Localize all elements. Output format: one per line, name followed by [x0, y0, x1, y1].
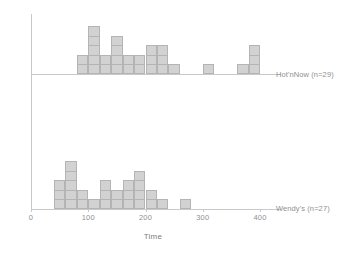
histogram-bar-cell [88, 45, 99, 55]
histogram-bar-cell [77, 199, 88, 209]
histogram-top-hot-n-now [31, 14, 281, 74]
histogram-bar [100, 180, 111, 209]
histogram-bar-cell [65, 161, 76, 171]
histogram-bar-cell [88, 199, 99, 209]
histogram-bar-cell [157, 55, 168, 65]
histogram-bar [123, 55, 134, 74]
histogram-bar [77, 55, 88, 74]
histogram-bar-cell [123, 64, 134, 74]
histogram-bar [111, 36, 122, 74]
histogram-bar [168, 64, 179, 74]
histogram-bar-cell [100, 190, 111, 200]
histogram-bar [180, 199, 191, 209]
x-tick-mark [88, 209, 89, 212]
histogram-bar [146, 45, 157, 74]
histogram-figure: 0100200300400 Hot'nNow (n=29) Wendy's (n… [0, 0, 358, 256]
histogram-bar-cell [88, 36, 99, 46]
histogram-bar-cell [77, 55, 88, 65]
histogram-bar-cell [65, 199, 76, 209]
histogram-bar [65, 161, 76, 209]
histogram-bar-cell [88, 26, 99, 36]
histogram-bar-cell [146, 55, 157, 65]
histogram-bar-cell [134, 171, 145, 181]
histogram-bar-cell [111, 45, 122, 55]
histogram-bar-cell [65, 190, 76, 200]
x-tick-label: 100 [73, 213, 103, 223]
histogram-bar-cell [100, 199, 111, 209]
histogram-bar-cell [168, 64, 179, 74]
histogram-bar-cell [134, 190, 145, 200]
histogram-bar [134, 171, 145, 209]
histogram-bar-cell [157, 45, 168, 55]
x-tick-label: 400 [245, 213, 275, 223]
histogram-bar-cell [134, 55, 145, 65]
histogram-bar-cell [157, 199, 168, 209]
histogram-bar-cell [249, 45, 260, 55]
histogram-bar-cell [100, 64, 111, 74]
histogram-bar-cell [77, 190, 88, 200]
x-axis-line [31, 209, 281, 210]
histogram-bar-cell [54, 180, 65, 190]
histogram-bar [237, 64, 248, 74]
x-tick-label: 0 [16, 213, 46, 223]
histogram-bar-cell [54, 190, 65, 200]
histogram-bar [134, 55, 145, 74]
histogram-bar-cell [111, 55, 122, 65]
histogram-bar [203, 64, 214, 74]
histogram-bar-cell [111, 199, 122, 209]
histogram-bar-cell [134, 180, 145, 190]
histogram-bar [249, 45, 260, 74]
histogram-bar-cell [123, 55, 134, 65]
histogram-bar-cell [100, 55, 111, 65]
histogram-bar-cell [146, 45, 157, 55]
histogram-bar-cell [88, 55, 99, 65]
histogram-bar [88, 26, 99, 74]
histogram-bar [157, 45, 168, 74]
histogram-bar [111, 190, 122, 209]
histogram-bar-cell [146, 199, 157, 209]
x-tick-mark [203, 209, 204, 212]
histogram-bar [157, 199, 168, 209]
histogram-bar-cell [249, 55, 260, 65]
histogram-bar [146, 190, 157, 209]
series-label-hot-n-now: Hot'nNow (n=29) [276, 70, 334, 80]
histogram-bar-cell [249, 64, 260, 74]
histogram-bar-cell [77, 64, 88, 74]
histogram-bar-cell [54, 199, 65, 209]
x-tick-mark [31, 209, 32, 212]
histogram-bar-cell [111, 190, 122, 200]
histogram-bar-cell [180, 199, 191, 209]
histogram-bottom-wendys [31, 149, 281, 209]
histogram-bar-cell [123, 180, 134, 190]
histogram-bar-cell [134, 64, 145, 74]
histogram-bar [100, 55, 111, 74]
histogram-bar-cell [111, 64, 122, 74]
histogram-bar-cell [111, 36, 122, 46]
histogram-bar [54, 180, 65, 209]
histogram-bar-cell [65, 180, 76, 190]
x-tick-mark [146, 209, 147, 212]
histogram-bar-cell [100, 180, 111, 190]
top-panel-baseline [31, 74, 281, 75]
histogram-bar-cell [146, 64, 157, 74]
histogram-bar [88, 199, 99, 209]
x-axis-title: Time [123, 232, 183, 241]
histogram-bar [77, 190, 88, 209]
histogram-bar-cell [203, 64, 214, 74]
histogram-bar-cell [88, 64, 99, 74]
histogram-bar-cell [237, 64, 248, 74]
histogram-bar-cell [146, 190, 157, 200]
histogram-bar-cell [123, 190, 134, 200]
histogram-bar-cell [65, 171, 76, 181]
histogram-bar-cell [157, 64, 168, 74]
x-tick-mark [260, 209, 261, 212]
x-tick-label: 300 [188, 213, 218, 223]
histogram-bar [123, 180, 134, 209]
histogram-bar-cell [123, 199, 134, 209]
x-tick-label: 200 [131, 213, 161, 223]
series-label-wendys: Wendy's (n=27) [276, 204, 330, 214]
histogram-bar-cell [134, 199, 145, 209]
